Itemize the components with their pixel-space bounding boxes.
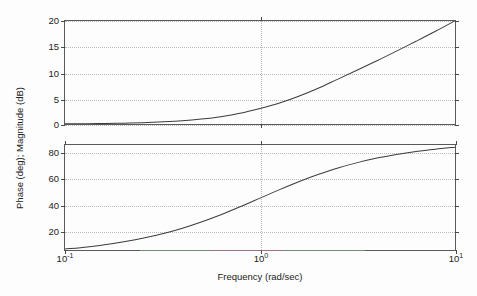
x-axis-title: Frequency (rad/sec) xyxy=(64,271,456,282)
magnitude-curve xyxy=(65,21,455,124)
phase-axes: 80 60 40 20 10-1 xyxy=(64,144,456,251)
magnitude-ytick-label-5: 5 xyxy=(54,95,59,105)
magnitude-ytick-label-10: 10 xyxy=(48,69,59,79)
phase-plot-area xyxy=(65,145,455,250)
xtick-mantissa-10e-1: 10 xyxy=(57,253,68,264)
xtick-label-10e-1: 10-1 xyxy=(57,254,74,264)
xtick-mantissa-10e1: 10 xyxy=(449,253,460,264)
y-axis-title: Phase (deg); Magnitude (dB) xyxy=(14,87,25,209)
xtick-exponent-10e0: 0 xyxy=(264,252,268,259)
xtick-label-10e0: 100 xyxy=(254,254,268,264)
phase-ytick-label-60: 60 xyxy=(48,175,59,185)
xtick-exponent-10e1: 1 xyxy=(459,252,463,259)
phase-ytick-label-40: 40 xyxy=(48,201,59,211)
magnitude-axes: 20 15 10 5 0 xyxy=(64,20,456,125)
magnitude-plot-area xyxy=(65,21,455,124)
phase-curve xyxy=(65,145,455,250)
xtick-mantissa-10e0: 10 xyxy=(254,253,265,264)
magnitude-ytick-label-15: 15 xyxy=(48,43,59,53)
xtick-exponent-10e-1: -1 xyxy=(67,252,73,259)
phase-ytick-label-80: 80 xyxy=(48,148,59,158)
phase-ytick-label-20: 20 xyxy=(48,227,59,237)
magnitude-ytick-label-0: 0 xyxy=(54,120,59,130)
xtick-label-10e1: 101 xyxy=(449,254,463,264)
magnitude-ytick-label-20: 20 xyxy=(48,16,59,26)
bode-plot-figure: Phase (deg); Magnitude (dB) 20 15 10 5 xyxy=(0,0,477,296)
